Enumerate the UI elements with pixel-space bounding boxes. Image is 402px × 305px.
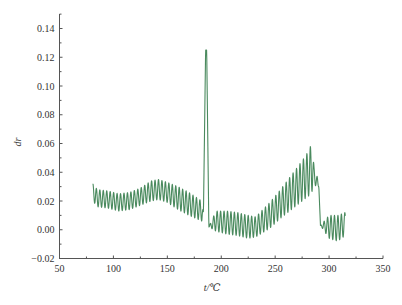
y-tick-label: 0.12 [37,52,55,63]
x-axis-title: t/℃ [204,282,221,293]
y-tick-label: 0.08 [37,109,55,120]
x-tick-label: 250 [268,263,283,274]
x-tick-label: 350 [376,263,391,274]
y-ticks: −0.020.000.020.040.060.080.100.120.14 [31,14,62,264]
x-tick-label: 150 [160,263,175,274]
y-tick-label: 0.02 [37,196,55,207]
series-line-dr [93,50,345,241]
y-axis-title: dr [12,137,23,146]
x-tick-label: 200 [214,263,229,274]
y-tick-label: −0.02 [31,253,54,264]
y-tick-label: 0.06 [37,138,55,149]
x-tick-label: 50 [55,263,65,274]
y-tick-label: 0.14 [37,23,55,34]
y-tick-label: 0.10 [37,81,55,92]
x-tick-label: 100 [106,263,121,274]
series-group [93,50,345,241]
chart: 50100150200250300350 −0.020.000.020.040.… [0,0,402,305]
x-tick-label: 300 [322,263,337,274]
y-tick-label: 0.00 [37,224,55,235]
y-tick-label: 0.04 [37,167,55,178]
